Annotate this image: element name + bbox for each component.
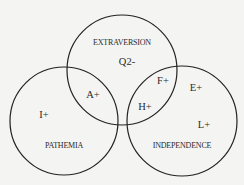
- factor-a: A+: [86, 89, 100, 100]
- factor-l: L+: [198, 119, 210, 130]
- factor-h: H+: [138, 101, 152, 112]
- set-label-pathemia: PATHEMIA: [45, 141, 84, 150]
- set-label-independence: INDEPENDENCE: [153, 141, 212, 150]
- factor-f: F+: [157, 75, 169, 86]
- venn-diagram: EXTRAVERSION PATHEMIA INDEPENDENCE Q2- A…: [0, 0, 244, 185]
- factor-e: E+: [190, 82, 202, 93]
- factor-i: I+: [39, 109, 48, 120]
- factor-q2: Q2-: [119, 56, 136, 67]
- set-label-extraversion: EXTRAVERSION: [93, 38, 151, 47]
